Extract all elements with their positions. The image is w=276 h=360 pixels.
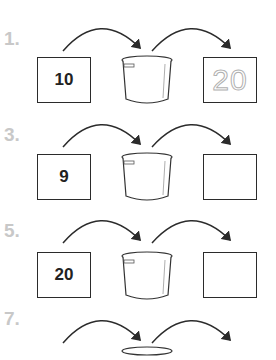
cooking-pot-icon: [120, 54, 174, 106]
output-box[interactable]: [203, 154, 257, 200]
input-box: 10: [37, 57, 91, 103]
input-value: 9: [59, 167, 68, 187]
cooking-pot-icon: [120, 151, 174, 203]
input-value: 10: [55, 70, 74, 90]
input-box: 20: [37, 252, 91, 298]
problem-3: 3. 9: [0, 114, 276, 209]
problem-1: 1. 10 20: [0, 18, 276, 113]
cooking-pot-icon: [120, 345, 174, 360]
problem-7: 7.: [0, 300, 276, 360]
input-value: 20: [55, 265, 74, 285]
input-box: 9: [37, 154, 91, 200]
problem-5: 5. 20: [0, 210, 276, 305]
output-box[interactable]: 20: [203, 57, 257, 103]
cooking-pot-icon: [120, 250, 174, 302]
output-box[interactable]: [203, 252, 257, 298]
traced-answer: 20: [212, 63, 247, 97]
